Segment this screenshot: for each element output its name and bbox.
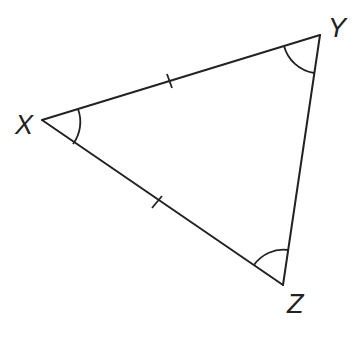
edge-xy bbox=[42, 35, 320, 120]
angle-arc-y bbox=[284, 46, 314, 73]
angle-arc-z bbox=[254, 250, 288, 265]
vertex-label-y: Y bbox=[328, 13, 348, 43]
edge-yz bbox=[283, 35, 320, 285]
vertex-label-x: X bbox=[14, 110, 34, 140]
triangle-diagram: X Y Z bbox=[0, 0, 362, 341]
edge-zx bbox=[42, 120, 283, 285]
triangle-svg: X Y Z bbox=[0, 0, 362, 341]
angle-arc-x bbox=[73, 109, 80, 144]
vertex-label-z: Z bbox=[286, 289, 305, 319]
